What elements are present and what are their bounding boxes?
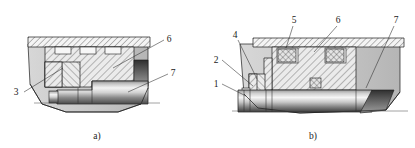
notch-rect-a-2 bbox=[80, 47, 96, 54]
caption-b: b) bbox=[309, 131, 317, 142]
callout-label-b-5: 5 bbox=[292, 15, 297, 25]
shaft-stub-a bbox=[49, 91, 58, 103]
subfigure-b: 1 2 4 5 6 7 b) bbox=[214, 15, 408, 142]
callout-label-b-7: 7 bbox=[394, 15, 399, 25]
callout-label-b-2: 2 bbox=[214, 55, 219, 65]
callout-label-b-4: 4 bbox=[233, 30, 238, 40]
callout-label-a-7: 7 bbox=[171, 68, 176, 78]
left-ring-block-a-inner bbox=[45, 62, 62, 87]
callout-label-b-1: 1 bbox=[214, 79, 219, 89]
figure-container: 3 6 7 a) bbox=[0, 0, 415, 148]
packing-seal-b-left bbox=[278, 49, 296, 62]
packing-seal-b-right bbox=[326, 49, 344, 62]
caption-a: a) bbox=[93, 131, 100, 142]
technical-drawing-svg: 3 6 7 a) bbox=[0, 0, 415, 148]
callout-label-a-3: 3 bbox=[14, 87, 19, 97]
shaft-b bbox=[238, 90, 372, 112]
callout-label-b-6: 6 bbox=[336, 15, 341, 25]
callout-label-a-6: 6 bbox=[167, 34, 172, 44]
top-plate-b bbox=[253, 38, 404, 47]
subfigure-a: 3 6 7 a) bbox=[14, 34, 176, 142]
packing-seal-b-center bbox=[310, 78, 321, 88]
notch-rect-a-1 bbox=[55, 47, 71, 54]
top-plate-a bbox=[28, 37, 150, 47]
notch-rect-a-3 bbox=[105, 47, 121, 54]
